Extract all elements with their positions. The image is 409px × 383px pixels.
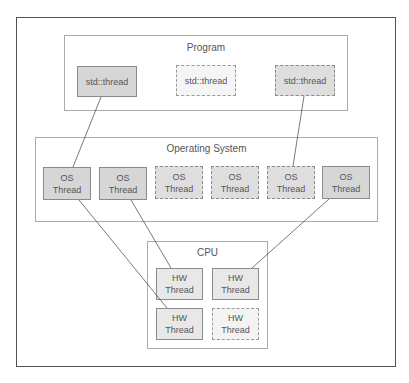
hw-thread-3: HWThread — [156, 308, 203, 340]
os-thread-line2: Thread — [277, 183, 306, 195]
os-thread-3: OSThread — [155, 166, 203, 199]
os-thread-line1: OS — [277, 171, 306, 183]
hw-thread-line1: HW — [221, 312, 250, 324]
os-thread-line2: Thread — [53, 184, 82, 196]
hw-thread-1: HWThread — [156, 268, 203, 300]
os-thread-line2: Thread — [165, 183, 194, 195]
os-thread-6: OSThread — [322, 166, 370, 199]
os-thread-line1: OS — [221, 171, 250, 183]
hw-thread-line1: HW — [165, 272, 194, 284]
program-thread-1: std::thread — [77, 66, 137, 97]
program-thread-3: std::thread — [275, 65, 335, 96]
os-thread-line1: OS — [109, 172, 138, 184]
os-thread-line2: Thread — [221, 183, 250, 195]
os-thread-line2: Thread — [109, 184, 138, 196]
hw-thread-4: HWThread — [212, 308, 259, 340]
os-thread-5: OSThread — [267, 166, 315, 199]
os-thread-line1: OS — [332, 171, 361, 183]
program-thread-label: std::thread — [284, 75, 327, 87]
os-thread-line1: OS — [165, 171, 194, 183]
os-thread-line2: Thread — [332, 183, 361, 195]
hw-thread-line1: HW — [221, 272, 250, 284]
program-thread-2: std::thread — [176, 65, 236, 96]
hw-thread-line2: Thread — [165, 324, 194, 336]
hw-thread-line2: Thread — [221, 324, 250, 336]
os-thread-4: OSThread — [211, 166, 259, 199]
hw-thread-line2: Thread — [221, 284, 250, 296]
os-thread-2: OSThread — [99, 167, 147, 200]
hw-thread-line1: HW — [165, 312, 194, 324]
program-thread-label: std::thread — [86, 76, 129, 88]
program-thread-label: std::thread — [185, 75, 228, 87]
os-title: Operating System — [36, 143, 377, 154]
program-title: Program — [65, 42, 347, 53]
os-thread-1: OSThread — [43, 167, 91, 200]
cpu-title: CPU — [148, 247, 267, 258]
hw-thread-2: HWThread — [212, 268, 259, 300]
hw-thread-line2: Thread — [165, 284, 194, 296]
os-thread-line1: OS — [53, 172, 82, 184]
